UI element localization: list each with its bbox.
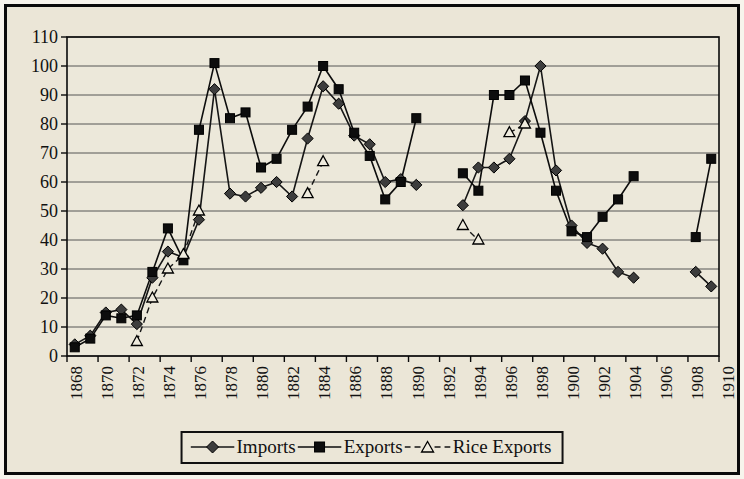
exports-marker [458, 169, 467, 178]
x-tick-label: 1896 [502, 366, 521, 400]
exports-marker [257, 163, 266, 172]
y-tick-label: 20 [40, 288, 58, 308]
x-tick-label: 1906 [657, 366, 676, 400]
x-tick-label: 1886 [346, 366, 365, 400]
exports-marker [629, 172, 638, 181]
exports-marker [334, 85, 343, 94]
legend-item-imports: Imports [191, 437, 296, 456]
exports-marker [303, 102, 312, 111]
exports-marker [598, 212, 607, 221]
exports-marker [396, 178, 405, 187]
exports-marker [707, 154, 716, 163]
y-tick-label: 60 [40, 172, 58, 192]
exports-marker [350, 128, 359, 137]
exports-marker [583, 233, 592, 242]
exports-marker [226, 114, 235, 123]
y-tick-label: 10 [40, 317, 58, 337]
y-tick-label: 40 [40, 230, 58, 250]
exports-marker [319, 62, 328, 71]
exports-marker [552, 186, 561, 195]
x-tick-label: 1888 [377, 366, 396, 400]
y-tick-label: 0 [49, 346, 58, 366]
chart-frame: 0102030405060708090100110186818701872187… [4, 4, 740, 475]
y-tick-label: 110 [32, 27, 58, 47]
x-tick-label: 1876 [191, 366, 210, 400]
rice-exports-legend-marker [405, 439, 451, 455]
x-tick-label: 1878 [222, 366, 241, 400]
x-tick-label: 1880 [253, 366, 272, 400]
exports-marker [288, 125, 297, 134]
legend: Imports Exports Rice Exports [181, 431, 564, 464]
exports-marker [70, 343, 79, 352]
exports-marker [101, 311, 110, 320]
exports-marker [381, 195, 390, 204]
y-tick-label: 30 [40, 259, 58, 279]
x-tick-label: 1872 [129, 366, 148, 400]
exports-marker [194, 125, 203, 134]
exports-legend-marker [298, 439, 342, 455]
x-tick-label: 1870 [98, 366, 117, 400]
x-tick-label: 1908 [688, 366, 707, 400]
exports-marker [163, 224, 172, 233]
exports-marker [567, 227, 576, 236]
exports-marker [489, 91, 498, 100]
line-chart: 0102030405060708090100110186818701872187… [7, 7, 737, 472]
y-tick-label: 80 [40, 114, 58, 134]
x-tick-label: 1900 [564, 366, 583, 400]
exports-marker [536, 128, 545, 137]
x-tick-label: 1904 [626, 366, 645, 401]
x-tick-label: 1898 [533, 366, 552, 400]
exports-marker [86, 334, 95, 343]
legend-label-exports: Exports [344, 437, 403, 456]
exports-marker [365, 151, 374, 160]
exports-marker [210, 59, 219, 68]
scanned-chart-page: 0102030405060708090100110186818701872187… [0, 0, 744, 479]
exports-marker [691, 233, 700, 242]
exports-marker [272, 154, 281, 163]
x-tick-label: 1892 [440, 366, 459, 400]
x-tick-label: 1882 [284, 366, 303, 400]
y-tick-label: 70 [40, 143, 58, 163]
x-tick-label: 1874 [160, 366, 179, 401]
exports-marker [241, 108, 250, 117]
exports-marker [614, 195, 623, 204]
x-tick-label: 1910 [719, 366, 737, 400]
y-tick-label: 100 [31, 56, 58, 76]
legend-item-rice-exports: Rice Exports [405, 437, 552, 456]
exports-marker [520, 76, 529, 85]
x-tick-label: 1884 [315, 366, 334, 401]
exports-marker [117, 314, 126, 323]
y-tick-label: 50 [40, 201, 58, 221]
x-tick-label: 1868 [67, 366, 86, 400]
legend-item-exports: Exports [298, 437, 403, 456]
exports-marker [132, 311, 141, 320]
exports-marker [474, 186, 483, 195]
x-tick-label: 1894 [471, 366, 490, 401]
exports-marker [505, 91, 514, 100]
exports-marker [412, 114, 421, 123]
legend-label-imports: Imports [237, 437, 296, 456]
imports-legend-marker [191, 439, 235, 455]
y-tick-label: 90 [40, 85, 58, 105]
x-tick-label: 1902 [595, 366, 614, 400]
legend-label-rice-exports: Rice Exports [453, 437, 552, 456]
exports-marker [148, 267, 157, 276]
x-tick-label: 1890 [409, 366, 428, 400]
